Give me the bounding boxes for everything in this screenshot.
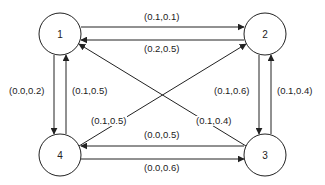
node-1-label: 1 xyxy=(57,30,63,40)
edge-2-to-1-label: (0.2,0.5) xyxy=(143,44,180,54)
edge-3-to-4-label: (0.0,0.5) xyxy=(143,130,180,140)
edge-2-to-3-label: (0.1,0.6) xyxy=(213,86,250,96)
edge-4-to-2-label: (0.1,0.5) xyxy=(90,116,127,126)
edge-1-to-4-label: (0.0,0.2) xyxy=(8,86,45,96)
edge-4-to-1-label: (0.1,0.5) xyxy=(71,86,108,96)
edge-1-to-2-label: (0.1,0.1) xyxy=(143,12,180,22)
node-4-label: 4 xyxy=(57,151,63,161)
edge-3-to-2-label: (0.1,0.4) xyxy=(276,86,313,96)
markov-transition-diagram: 1 2 3 4 (0.1,0.1) (0.2,0.5) (0.0,0.2) (0… xyxy=(0,0,325,185)
edge-3-to-1-label: (0.1,0.4) xyxy=(195,116,232,126)
edge-4-to-3-label: (0.0,0.6) xyxy=(143,163,180,173)
node-2-label: 2 xyxy=(262,30,268,40)
node-3-label: 3 xyxy=(262,151,268,161)
